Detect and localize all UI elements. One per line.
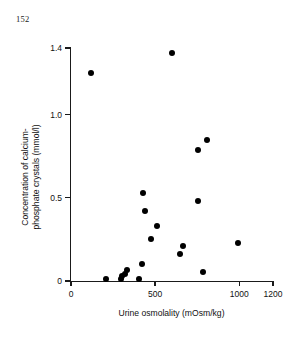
data-point [139, 261, 145, 267]
y-tick-mark [65, 47, 70, 48]
x-tick-label: 1000 [230, 289, 249, 299]
y-axis-title-line-2: phosphate crystals (mmol/l) [31, 124, 41, 229]
x-tick-label: 500 [148, 289, 162, 299]
y-tick-mark [65, 197, 70, 198]
figure-scatter-plot: 152 00.51.01.4 050010001200 Concentratio… [0, 0, 308, 338]
x-tick-label: 0 [69, 289, 74, 299]
x-tick-mark [272, 281, 273, 286]
data-point [177, 251, 183, 257]
data-point [180, 243, 186, 249]
data-point [195, 198, 201, 204]
data-point [88, 70, 94, 76]
y-tick-label: 1.4 [30, 43, 62, 53]
data-point [148, 236, 154, 242]
y-tick-mark [65, 280, 70, 281]
x-axis-title: Urine osmolality (mOsm/kg) [70, 308, 273, 318]
data-point [235, 240, 241, 246]
x-tick-mark [239, 281, 240, 286]
x-axis-line [70, 281, 273, 282]
plot-area: 00.51.01.4 050010001200 Concentration of… [0, 0, 308, 338]
x-tick-label: 1200 [264, 289, 283, 299]
data-point [200, 269, 206, 275]
y-axis-line [70, 47, 71, 282]
data-point [142, 208, 148, 214]
data-point [118, 276, 124, 282]
data-point [204, 137, 210, 143]
data-point [195, 147, 201, 153]
y-tick-mark [65, 114, 70, 115]
x-tick-mark [70, 281, 71, 286]
data-point [140, 190, 146, 196]
data-point [154, 223, 160, 229]
y-axis-title: Concentration of calcium- phosphate crys… [20, 72, 42, 282]
x-tick-mark [154, 281, 155, 286]
y-axis-title-line-1: Concentration of calcium- [20, 128, 30, 225]
data-point [169, 50, 175, 56]
